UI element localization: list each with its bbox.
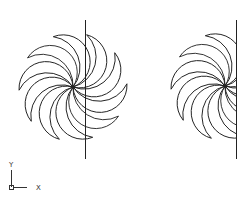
blade-arc[interactable] xyxy=(212,30,246,90)
drawing-canvas[interactable] xyxy=(0,0,246,201)
ucs-y-label: Y xyxy=(9,162,13,169)
full-pinwheel-figure[interactable] xyxy=(12,26,135,147)
blade-arc[interactable] xyxy=(72,43,127,104)
center-point xyxy=(223,84,227,88)
blade-arc[interactable] xyxy=(188,25,246,88)
half-pinwheel-figure[interactable] xyxy=(164,25,246,146)
blade-arc[interactable] xyxy=(36,26,101,89)
blade-arc[interactable] xyxy=(171,69,226,130)
blade-arc[interactable] xyxy=(19,70,74,131)
blade-arc[interactable] xyxy=(27,45,79,87)
blade-arc[interactable] xyxy=(45,85,110,148)
blade-arc[interactable] xyxy=(68,87,120,129)
ucs-icon xyxy=(10,170,28,190)
center-point xyxy=(71,85,75,89)
blade-arc[interactable] xyxy=(179,44,231,86)
ucs-x-label: X xyxy=(36,185,41,192)
